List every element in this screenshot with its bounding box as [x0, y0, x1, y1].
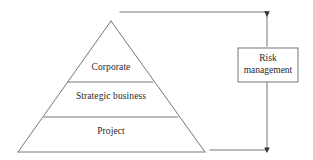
risk-management-label-line-2: management — [238, 64, 298, 76]
risk-management-box-label: Risk management — [238, 52, 298, 76]
pyramid-label-project: Project — [0, 126, 222, 137]
top-connector-arrow — [120, 11, 270, 46]
diagram-canvas: Corporate Strategic business Project Ris… — [0, 0, 313, 160]
risk-management-label-line-1: Risk — [238, 52, 298, 64]
arrowhead-top-down-icon — [264, 11, 270, 17]
pyramid-label-strategic-business: Strategic business — [0, 91, 222, 102]
pyramid-label-corporate: Corporate — [0, 62, 222, 73]
